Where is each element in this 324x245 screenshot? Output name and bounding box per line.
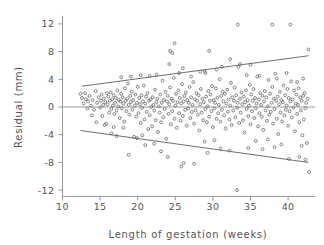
data-point: [192, 81, 195, 84]
data-point: [169, 123, 172, 126]
data-point: [301, 134, 304, 137]
data-point: [220, 94, 223, 97]
data-point: [266, 138, 269, 141]
data-point: [258, 112, 261, 115]
data-point: [91, 99, 94, 102]
data-point: [300, 144, 303, 147]
data-point: [102, 97, 105, 100]
data-point: [264, 109, 267, 112]
data-point: [304, 158, 307, 161]
data-point: [297, 87, 300, 90]
data-point: [263, 90, 266, 93]
data-point: [142, 84, 145, 87]
data-point: [199, 88, 202, 91]
data-point: [165, 137, 168, 140]
data-point: [190, 75, 193, 78]
data-point: [178, 112, 181, 115]
data-point: [190, 96, 193, 99]
data-point: [214, 101, 217, 104]
data-point: [163, 108, 166, 111]
data-point: [202, 101, 205, 104]
data-point: [82, 102, 85, 105]
y-axis-title: Residual (mm): [13, 66, 24, 148]
data-point: [81, 97, 84, 100]
data-point: [158, 111, 161, 114]
x-tick-label: 35: [244, 201, 257, 212]
y-tick-label: 8: [48, 46, 54, 57]
x-tick-label: 30: [206, 201, 219, 212]
data-point: [95, 121, 98, 124]
data-point: [134, 93, 137, 96]
data-point: [111, 98, 114, 101]
y-tick-label: 12: [42, 18, 55, 29]
data-point: [167, 112, 170, 115]
data-point: [102, 103, 105, 106]
data-point: [162, 116, 165, 119]
data-point: [296, 112, 299, 115]
data-point: [251, 99, 254, 102]
data-point: [285, 72, 288, 75]
data-point: [148, 114, 151, 117]
data-point: [114, 101, 117, 104]
data-point: [231, 96, 234, 99]
data-point: [181, 67, 184, 70]
data-point: [190, 110, 193, 113]
y-axis-ticks: 12840-4-8-12: [38, 18, 63, 195]
data-point: [189, 117, 192, 120]
data-point: [123, 87, 126, 90]
data-point: [270, 101, 273, 104]
data-point: [97, 96, 100, 99]
x-axis-title: Length of gestation (weeks): [109, 229, 268, 240]
data-point: [254, 97, 257, 100]
data-point: [219, 120, 222, 123]
data-point: [267, 79, 270, 82]
data-point: [252, 88, 255, 91]
data-point: [112, 126, 115, 129]
data-point: [226, 110, 229, 113]
data-point: [152, 103, 155, 106]
data-point: [280, 143, 283, 146]
data-point: [110, 132, 113, 135]
data-point: [278, 103, 281, 106]
data-point: [140, 94, 143, 97]
data-point: [269, 92, 272, 95]
data-point: [138, 97, 141, 100]
data-point: [230, 124, 233, 127]
data-point: [145, 95, 148, 98]
data-point: [176, 101, 179, 104]
data-point: [242, 119, 245, 122]
data-point: [240, 91, 243, 94]
data-point: [109, 91, 112, 94]
data-point: [105, 92, 108, 95]
data-point: [100, 93, 103, 96]
data-point: [151, 96, 154, 99]
data-point: [246, 99, 249, 102]
data-point: [239, 97, 242, 100]
data-point: [116, 89, 119, 92]
y-tick-label: 0: [48, 101, 54, 112]
data-point: [168, 63, 171, 66]
data-point: [96, 101, 99, 104]
data-point: [302, 77, 305, 80]
data-point: [281, 120, 284, 123]
data-point: [247, 115, 250, 118]
data-point: [263, 100, 266, 103]
data-point: [287, 124, 290, 127]
data-point: [166, 155, 169, 158]
x-tick-label: 15: [94, 201, 107, 212]
data-point: [208, 49, 211, 52]
data-point: [161, 79, 164, 82]
data-point: [154, 88, 157, 91]
data-point: [154, 119, 157, 122]
y-tick-label: -4: [44, 129, 54, 140]
data-point: [282, 84, 285, 87]
data-point: [257, 125, 260, 128]
data-point: [184, 91, 187, 94]
data-point: [295, 93, 298, 96]
chart-canvas: 12840-4-8-12 10152025303540 Length of ge…: [0, 0, 324, 245]
data-point: [137, 112, 140, 115]
data-point: [249, 123, 252, 126]
data-point: [303, 92, 306, 95]
data-point: [181, 83, 184, 86]
data-point: [281, 101, 284, 104]
